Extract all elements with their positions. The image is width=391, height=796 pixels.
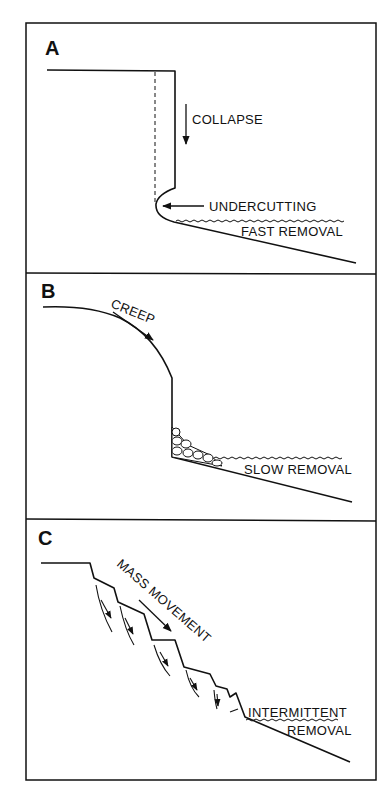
label-creep: CREEP xyxy=(109,296,158,327)
panel-a: A COLLAPSE UNDERCUTTING FAST REMOVAL xyxy=(45,37,356,263)
panel-letter-c: C xyxy=(38,527,52,549)
panel-b: B CREEP SLOW REMOVAL xyxy=(41,280,352,502)
label-slow-removal: SLOW REMOVAL xyxy=(244,462,352,477)
label-fast-removal: FAST REMOVAL xyxy=(241,224,343,239)
talus-debris-icon xyxy=(172,427,222,466)
slope-diagram: A COLLAPSE UNDERCUTTING FAST REMOVAL B C… xyxy=(0,0,391,796)
water-line-a xyxy=(176,220,344,222)
label-undercutting: UNDERCUTTING xyxy=(209,199,317,214)
panel-c: C MASS MOVEMENT INTERMITTENT REMOVAL xyxy=(38,527,352,762)
label-collapse: COLLAPSE xyxy=(192,112,263,127)
water-line-b xyxy=(214,457,342,459)
label-removal: REMOVAL xyxy=(287,723,352,738)
panel-letter-b: B xyxy=(41,280,55,302)
panel-letter-a: A xyxy=(45,37,59,59)
label-intermittent: INTERMITTENT xyxy=(248,705,347,720)
figure-frame xyxy=(26,23,376,780)
label-mass-movement: MASS MOVEMENT xyxy=(114,556,214,646)
